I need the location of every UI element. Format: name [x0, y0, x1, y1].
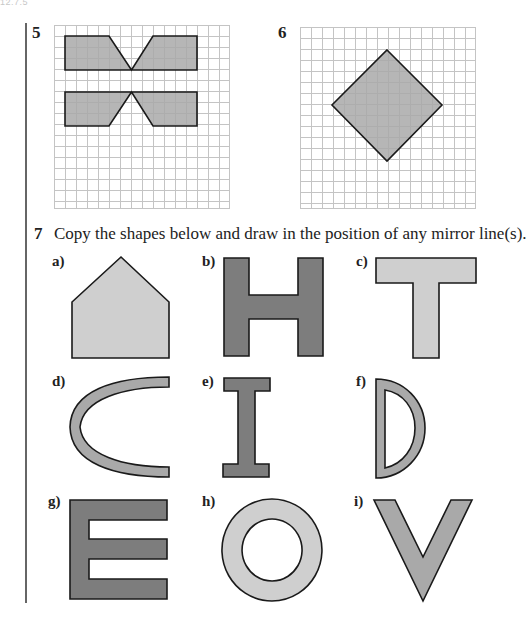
- part-i-label: i): [354, 493, 363, 510]
- part-b-label: b): [202, 253, 215, 270]
- part-a-label: a): [52, 253, 65, 270]
- shape-f-letter-d: [374, 377, 428, 481]
- shape-g-letter-e: [68, 498, 170, 602]
- shape-a-house: [70, 255, 172, 361]
- question-5-number: 5: [32, 23, 41, 43]
- grid6-square-shape: [332, 50, 442, 161]
- question-5-grid: [54, 25, 230, 209]
- question-7-text: Copy the shapes below and draw in the po…: [54, 224, 527, 244]
- part-e-label: e): [202, 373, 214, 390]
- margin-rule: [25, 23, 27, 603]
- part-f-label: f): [356, 373, 366, 390]
- question-6-grid: [300, 27, 476, 209]
- part-h-label: h): [202, 493, 215, 510]
- shape-b-letter-h: [222, 256, 326, 358]
- shape-h-ring: [220, 497, 324, 603]
- part-d-label: d): [52, 373, 65, 390]
- shape-i-letter-v: [372, 498, 476, 604]
- part-g-label: g): [48, 493, 61, 510]
- shape-c-letter-t: [374, 256, 478, 360]
- shape-d-arc: [68, 375, 172, 479]
- part-c-label: c): [356, 253, 368, 270]
- question-6-number: 6: [278, 23, 287, 43]
- shape-e-letter-i: [222, 376, 272, 480]
- question-7-number: 7: [34, 224, 43, 244]
- page-header: 12.7.5: [0, 0, 28, 7]
